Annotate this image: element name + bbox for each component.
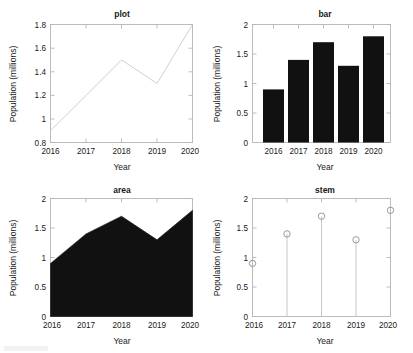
panel-plot-xlabel: Year [113, 162, 130, 172]
panel-plot-line-series [51, 25, 193, 131]
x-tick-label: 2018 [112, 147, 131, 156]
figure-canvas: plot [0, 0, 413, 353]
y-tick-label: 0.5 [237, 109, 249, 118]
panel-plot-x-tick-labels: 2016 2017 2018 2019 2020 [41, 147, 199, 156]
bar-2020 [363, 36, 384, 142]
figure-bottom-artifact [4, 346, 48, 351]
panel-area-xlabel: Year [113, 336, 130, 346]
y-tick-label: 1.8 [35, 21, 47, 30]
panel-plot-y-tick-labels: 0.8 1 1.2 1.4 1.6 1.8 [35, 21, 47, 148]
panel-area-title: area [113, 185, 131, 195]
x-tick-label: 2017 [77, 321, 96, 330]
bar-2019 [338, 66, 359, 143]
panel-bar-x-tick-labels: 2016 2017 2018 2019 2020 [264, 147, 383, 156]
panel-stem-series [249, 207, 393, 316]
x-tick-label: 2019 [148, 147, 167, 156]
panel-area-ylabel: Population (millions) [8, 220, 18, 297]
y-tick-label: 1.6 [35, 44, 47, 53]
panel-area-x-tick-labels: 2016 2017 2018 2019 2020 [43, 321, 200, 330]
panel-bar-ylabel: Population (millions) [212, 46, 222, 123]
panel-plot-title: plot [114, 9, 130, 19]
panel-bar-x-ticks [274, 25, 374, 29]
x-tick-label: 2016 [41, 147, 60, 156]
x-tick-label: 2017 [278, 321, 297, 330]
panel-plot-y-ticks [51, 25, 193, 143]
x-tick-label: 2016 [43, 321, 62, 330]
panel-stem: stem [207, 176, 413, 353]
y-tick-label: 1 [243, 254, 248, 263]
panel-bar-y-tick-labels: 0 0.5 1 1.5 2 [237, 21, 249, 148]
y-tick-label: 1.5 [35, 224, 47, 233]
panel-bar-series [263, 36, 384, 142]
bar-2018 [313, 42, 334, 142]
panel-bar-xlabel: Year [316, 162, 333, 172]
panel-stem-title: stem [315, 185, 335, 195]
y-tick-label: 2 [243, 195, 248, 204]
x-tick-label: 2018 [314, 147, 333, 156]
x-tick-label: 2019 [339, 147, 358, 156]
panel-stem-x-tick-labels: 2016 2017 2018 2019 2020 [245, 321, 398, 330]
x-tick-label: 2020 [181, 321, 200, 330]
panel-area-y-tick-labels: 0 0.5 1 1.5 2 [35, 195, 47, 322]
bar-2017 [288, 60, 309, 143]
panel-plot-x-ticks [51, 25, 193, 143]
x-tick-label: 2019 [148, 321, 167, 330]
y-tick-label: 0.5 [237, 283, 249, 292]
x-tick-label: 2016 [264, 147, 283, 156]
y-tick-label: 2 [243, 21, 248, 30]
panel-plot-ylabel: Population (millions) [8, 46, 18, 123]
panel-area: area 0 0 [0, 176, 206, 353]
panel-area-x-ticks [86, 199, 157, 203]
x-tick-label: 2019 [347, 321, 366, 330]
y-tick-label: 0 [243, 139, 248, 148]
panel-stem-ylabel: Population (millions) [212, 220, 222, 297]
x-tick-label: 2016 [245, 321, 264, 330]
panel-stem-x-ticks [287, 199, 356, 203]
panel-stem-xlabel: Year [316, 336, 333, 346]
panel-bar-title: bar [318, 9, 332, 19]
y-tick-label: 1.2 [35, 91, 47, 100]
y-tick-label: 1 [243, 80, 248, 89]
x-tick-label: 2017 [77, 147, 96, 156]
x-tick-label: 2020 [181, 147, 200, 156]
y-tick-label: 1 [41, 254, 46, 263]
x-tick-label: 2018 [312, 321, 331, 330]
x-tick-label: 2018 [112, 321, 131, 330]
panel-plot-axes-box [51, 25, 193, 143]
y-tick-label: 1 [41, 115, 46, 124]
y-tick-label: 1.5 [237, 224, 249, 233]
panel-plot: plot [0, 0, 206, 176]
panel-bar: bar [207, 0, 413, 176]
y-tick-label: 2 [41, 195, 46, 204]
panel-stem-y-tick-labels: 0 0.5 1 1.5 2 [237, 195, 249, 322]
x-tick-label: 2020 [364, 147, 383, 156]
y-tick-label: 0.5 [35, 283, 47, 292]
y-tick-label: 1.4 [35, 68, 47, 77]
y-tick-label: 1.5 [237, 50, 249, 59]
bar-2016 [263, 89, 284, 142]
x-tick-label: 2020 [379, 321, 398, 330]
x-tick-label: 2017 [289, 147, 308, 156]
panel-area-fill-series [51, 210, 193, 316]
